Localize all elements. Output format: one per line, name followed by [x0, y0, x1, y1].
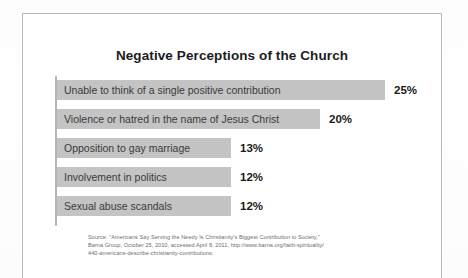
bar-chart-plot-area: Unable to think of a single positive con…	[55, 76, 435, 226]
bar-category-label: Violence or hatred in the name of Jesus …	[64, 109, 279, 129]
bar-value-label: 12%	[240, 196, 263, 216]
bar-category-label: Unable to think of a single positive con…	[64, 80, 281, 100]
page-title: Negative Perceptions of the Church	[22, 48, 442, 63]
bar-category-label: Sexual abuse scandals	[64, 196, 172, 216]
bar-value-label: 13%	[240, 138, 263, 158]
bar-value-label: 20%	[329, 109, 352, 129]
source-line: Source: "Americans Say Serving the Needy…	[88, 233, 388, 241]
bar-value-label: 25%	[394, 80, 417, 100]
bar-category-label: Opposition to gay marriage	[64, 138, 190, 158]
source-line: 440-americans-describe-christianity-cont…	[88, 249, 388, 257]
bar-value-label: 12%	[240, 167, 263, 187]
source-citation: Source: "Americans Say Serving the Needy…	[88, 233, 388, 258]
bar-category-label: Involvement in politics	[64, 167, 167, 187]
source-line: Barna Group, October 25, 2010, accessed …	[88, 241, 388, 249]
